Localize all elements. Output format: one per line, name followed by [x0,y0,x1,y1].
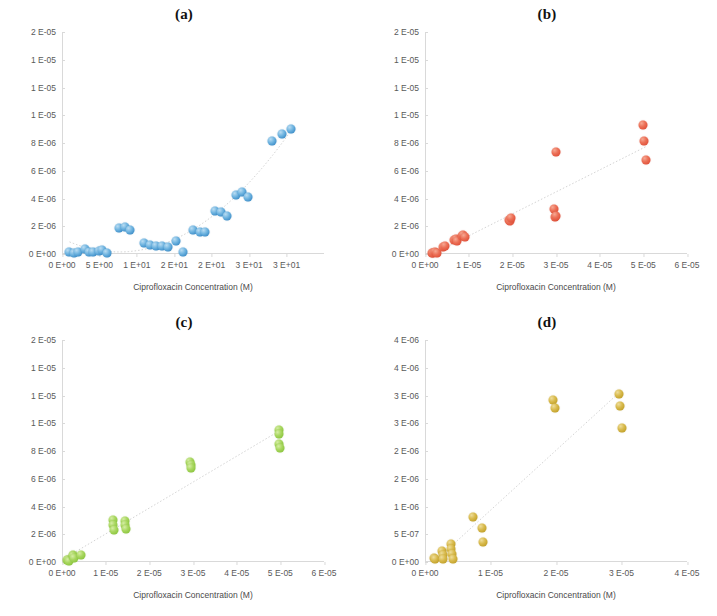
panel-c-y-tick: 1 E-05 [31,363,62,373]
panel-b-y-tick: 1 E-05 [394,110,425,120]
panel-a-x-axis-label: Ciprofloxacin Concentration (M) [62,282,324,292]
tick-mark-icon [556,562,557,565]
panel-a-y-tick: 2 E-06 [31,221,62,231]
panel-b-y-tick: 2 E-06 [394,221,425,231]
panel-b-x-tick: 0 E+00 [411,254,438,270]
panel-d-x-tick: 2 E-05 [543,562,568,578]
figure-four-panel-scatter: (a) Load (g Ciprofloxacin / g Polymer) 0… [0,0,717,616]
panel-b-y-tick: 4 E-06 [394,194,425,204]
panel-d-y-tick: 2 E-06 [394,446,425,456]
panel-a-y-tick: 1 E-05 [31,110,62,120]
tick-mark-icon [287,254,288,257]
panel-d-x-tick: 0 E+00 [411,562,438,578]
panel-c-y-tick: 6 E-06 [31,474,62,484]
panel-c-y-tick: 2 E-06 [31,529,62,539]
panel-a-title: (a) [0,6,358,23]
panel-c-y-tick: 1 E-05 [31,418,62,428]
panel-c-x-tick: 4 E-05 [224,562,249,578]
tick-mark-icon [425,254,426,257]
tick-mark-icon [62,254,63,257]
panel-a-y-tick: 2 E-05 [31,27,62,37]
panel-a-x-tick: 0 E+00 [48,254,75,270]
panel-d-x-tick: 4 E-05 [674,562,699,578]
panel-d-y-tick: 3 E-06 [394,418,425,428]
tick-mark-icon [600,254,601,257]
panel-d-y-tick: 3 E-06 [394,391,425,401]
panel-a-y-tick: 1 E-05 [31,83,62,93]
panel-c: (c) Load (g Ciprofloxacin / g Polymer) 0… [0,308,358,616]
panel-b-y-tick: 6 E-06 [394,166,425,176]
tick-mark-icon [687,562,688,565]
panel-b-x-tick: 1 E-05 [456,254,481,270]
tick-mark-icon [193,562,194,565]
panel-b-x-tick: 4 E-05 [587,254,612,270]
panel-d-y-tick: 5 E-07 [394,529,425,539]
panel-d-y-tick: 4 E-06 [394,335,425,345]
tick-mark-icon [249,254,250,257]
panel-c-title: (c) [0,314,358,331]
panel-b-trendline [425,32,687,254]
panel-b-title: (b) [359,6,717,23]
panel-b-x-tick: 5 E-05 [631,254,656,270]
panel-a-x-tick: 2 E+01 [161,254,188,270]
panel-b-x-axis-label: Ciprofloxacin Concentration (M) [425,282,687,292]
tick-mark-icon [425,562,426,565]
panel-c-x-tick: 3 E-05 [180,562,205,578]
panel-d-plot-area: 0 E+005 E-071 E-062 E-062 E-063 E-063 E-… [425,340,687,562]
tick-mark-icon [174,254,175,257]
tick-mark-icon [237,562,238,565]
panel-a-y-tick: 8 E-06 [31,138,62,148]
tick-mark-icon [687,254,688,257]
panel-b-plot-area: 0 E+002 E-064 E-066 E-068 E-061 E-051 E-… [425,32,687,254]
tick-mark-icon [621,562,622,565]
panel-d-trendline [425,340,687,562]
panel-c-x-tick: 1 E-05 [93,562,118,578]
tick-mark-icon [212,254,213,257]
tick-mark-icon [643,254,644,257]
panel-d-x-tick: 1 E-05 [478,562,503,578]
panel-c-x-axis-label: Ciprofloxacin Concentration (M) [62,590,324,600]
panel-a-trendline [62,32,324,254]
tick-mark-icon [99,254,100,257]
panel-a-y-tick: 1 E-05 [31,55,62,65]
panel-c-y-tick: 4 E-06 [31,502,62,512]
panel-c-y-tick: 2 E-05 [31,335,62,345]
tick-mark-icon [62,562,63,565]
panel-b-x-tick: 2 E-05 [500,254,525,270]
tick-mark-icon [490,562,491,565]
panel-a-y-tick: 6 E-06 [31,166,62,176]
tick-mark-icon [324,562,325,565]
panel-d-y-tick: 4 E-06 [394,363,425,373]
tick-mark-icon [556,254,557,257]
panel-b-y-tick: 1 E-05 [394,83,425,93]
panel-b-y-tick: 1 E-05 [394,55,425,65]
panel-c-y-tick: 1 E-05 [31,391,62,401]
panel-a: (a) Load (g Ciprofloxacin / g Polymer) 0… [0,0,358,308]
panel-c-x-tick: 6 E-05 [311,562,336,578]
panel-a-x-tick: 5 E+00 [86,254,113,270]
panel-c-trendline [62,340,324,562]
panel-d-y-tick: 1 E-06 [394,502,425,512]
panel-a-x-tick: 1 E+01 [123,254,150,270]
panel-a-y-tick: 4 E-06 [31,194,62,204]
panel-d-x-tick: 3 E-05 [609,562,634,578]
panel-a-x-tick: 3 E+01 [273,254,300,270]
panel-a-x-tick: 3 E+01 [236,254,263,270]
tick-mark-icon [106,562,107,565]
tick-mark-icon [280,562,281,565]
panel-b-x-tick: 3 E-05 [543,254,568,270]
panel-b-y-tick: 2 E-05 [394,27,425,37]
panel-c-x-tick: 2 E-05 [137,562,162,578]
panel-d-title: (d) [359,314,717,331]
panel-d-x-axis-label: Ciprofloxacin Concentration (M) [425,590,687,600]
tick-mark-icon [149,562,150,565]
panel-d-y-tick: 2 E-06 [394,474,425,484]
panel-d: (d) Load (g Ciprofloxacin / g Polymer) 0… [359,308,717,616]
panel-c-x-tick: 0 E+00 [48,562,75,578]
panel-b-y-tick: 8 E-06 [394,138,425,148]
panel-a-plot-area: 0 E+002 E-064 E-066 E-068 E-061 E-051 E-… [62,32,324,254]
panel-a-x-tick: 2 E+01 [198,254,225,270]
panel-b-x-tick: 6 E-05 [674,254,699,270]
tick-mark-icon [469,254,470,257]
tick-mark-icon [137,254,138,257]
